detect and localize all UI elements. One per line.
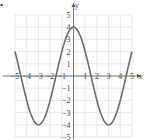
y-tick-label: −5 [62, 133, 71, 140]
y-tick-label: −4 [62, 121, 71, 130]
y-tick-label: −2 [62, 96, 71, 105]
y-tick-label: 2 [67, 48, 71, 57]
x-tick-label: −2 [46, 72, 55, 81]
x-tick-label: −4 [22, 72, 31, 81]
x-tick-label: 1 [83, 72, 87, 81]
y-axis-label: y [74, 1, 79, 10]
x-tick-label: 4 [118, 72, 122, 81]
x-tick-label: 2 [95, 72, 99, 81]
bullet-marker: • [0, 0, 3, 10]
y-tick-label: 5 [67, 11, 71, 20]
x-tick-label: 3 [107, 72, 111, 81]
x-tick-label: −3 [34, 72, 43, 81]
tick-labels: −5−4−3−2−11234554321−1−2−3−4−5 [11, 11, 134, 140]
y-tick-label: 1 [67, 60, 71, 69]
y-tick-label: −3 [62, 109, 71, 118]
x-tick-label: −1 [58, 72, 67, 81]
x-tick-label: 5 [130, 72, 134, 81]
y-tick-label: −1 [62, 84, 71, 93]
x-tick-label: −5 [11, 72, 20, 81]
x-axis-label: x [138, 72, 143, 81]
chart: −5−4−3−2−11234554321−1−2−3−4−5 x y • [0, 0, 144, 140]
